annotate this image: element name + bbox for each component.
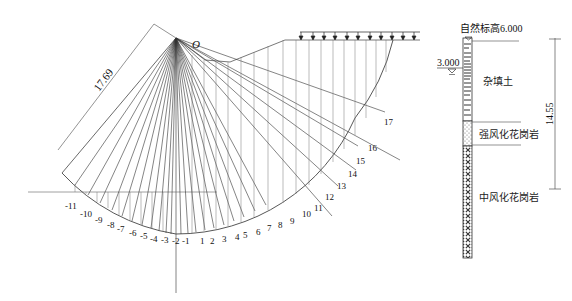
radial-lines	[75, 38, 400, 234]
slice-label: -5	[140, 231, 148, 241]
slice-label: -4	[150, 234, 158, 244]
slice-label: -3	[161, 235, 169, 245]
slice-label: -9	[95, 215, 103, 225]
slice-label: 14	[348, 169, 358, 179]
layer-label-strongly-weathered: 强风化花岗岩	[479, 128, 539, 140]
slice-label: -10	[80, 209, 92, 219]
slice-label: -7	[117, 224, 125, 234]
slice-label: 6	[256, 227, 261, 237]
slice-label: 1	[200, 236, 205, 246]
slice-label: -6	[129, 228, 137, 238]
radius-line-left	[62, 38, 176, 173]
slope-stability-diagram: 17.69	[0, 0, 572, 301]
slice-labels-negative: -11 -10 -9 -8 -7 -6 -5 -4 -3 -2 -1	[65, 201, 190, 246]
slice-label: 13	[337, 181, 347, 191]
dimension-extension-bottom	[58, 150, 62, 173]
slice-label: 10	[302, 209, 312, 219]
layer-label-fill-soil: 杂填土	[483, 75, 513, 87]
slice-label: 7	[267, 223, 272, 233]
slice-label: -2	[172, 236, 180, 246]
slope-surface	[176, 38, 420, 62]
slice-label: 4	[235, 232, 240, 242]
surcharge-load-arrows	[299, 32, 420, 40]
borehole-log	[437, 37, 561, 258]
layer-strongly-weathered	[463, 121, 472, 146]
slice-label: 12	[325, 192, 334, 202]
slice-label: 2	[210, 236, 215, 246]
layer-label-moderately-weathered: 中风化花岗岩	[479, 191, 539, 203]
slice-label: 15	[356, 156, 366, 166]
dimension-extension-top	[154, 24, 176, 38]
slice-label: -1	[182, 236, 190, 246]
slice-label: 9	[290, 216, 295, 226]
slice-label: 17	[384, 117, 394, 127]
water-level-marker-icon	[448, 69, 456, 73]
slice-label: 3	[222, 234, 227, 244]
layer-moderately-weathered	[463, 146, 472, 258]
slice-label: -8	[107, 220, 115, 230]
depth-dimension-label: 14.55	[544, 103, 555, 126]
top-elevation-label: 自然标高6.000	[460, 22, 523, 34]
water-level-label: 3.000	[437, 57, 460, 68]
slice-verticals	[75, 40, 386, 233]
slice-label: 11	[314, 203, 323, 213]
slice-label: 5	[243, 230, 248, 240]
center-label: O	[192, 38, 200, 50]
slice-label: -11	[65, 201, 77, 211]
dimension-line	[58, 24, 154, 150]
slice-label: 8	[278, 220, 283, 230]
slice-label: 16	[368, 143, 378, 153]
